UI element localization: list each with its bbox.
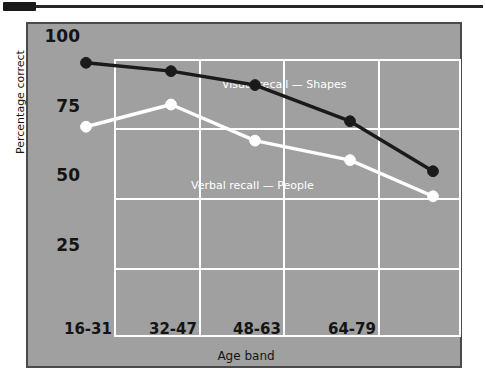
x-axis-tick-1: 16-31 [43, 320, 133, 338]
y-axis-tick-25: 25 [34, 235, 80, 255]
chart-panel: 100 75 50 25 Percentage correct 16-31 32… [26, 22, 462, 368]
gridline-h-50 [114, 198, 461, 200]
y-axis-tick-75: 75 [34, 96, 80, 116]
x-axis-label: Age band [28, 349, 464, 363]
x-axis-tick-2: 32-47 [128, 320, 218, 338]
gridline-v-4 [378, 59, 380, 337]
plot-area [114, 59, 461, 337]
y-axis-tick-100: 100 [34, 26, 80, 46]
axis-line-left [114, 59, 116, 337]
gridline-h-75 [114, 128, 461, 130]
gridline-h-100 [114, 59, 461, 61]
chart-page: 100 75 50 25 Percentage correct 16-31 32… [0, 0, 485, 389]
x-axis-tick-4: 64-79 [307, 320, 397, 338]
x-axis-tick-3: 48-63 [212, 320, 302, 338]
y-axis-tick-50: 50 [34, 165, 80, 185]
series-label-verbal-recall: Verbal recall — People [191, 179, 314, 192]
gridline-h-25 [114, 268, 461, 270]
gridline-v-5 [459, 59, 461, 337]
header-rule [36, 5, 483, 8]
page-marker-swatch [3, 2, 36, 11]
series-label-visual-recall: Visual recall — Shapes [222, 78, 346, 91]
gridline-v-3 [283, 59, 285, 337]
gridline-v-2 [199, 59, 201, 337]
y-axis-label: Percentage correct [14, 50, 27, 154]
